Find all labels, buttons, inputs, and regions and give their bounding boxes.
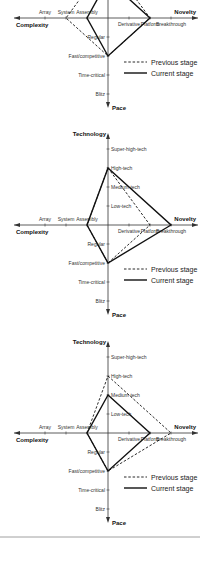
- arrow-left-icon: [14, 16, 20, 20]
- pace-axis-label: Pace: [112, 312, 127, 318]
- pace-tick: Blitz: [96, 506, 106, 512]
- complexity-axis-label: Complexity: [16, 229, 49, 235]
- technology-tick: High-tech: [111, 373, 133, 379]
- arrow-up-icon: [106, 133, 110, 139]
- pace-tick: Blitz: [96, 91, 106, 97]
- novelty-tick: Derivative: [118, 21, 140, 27]
- complexity-tick: System: [58, 216, 75, 222]
- pace-tick: Fast/competitive: [69, 53, 106, 59]
- complexity-tick: Array: [39, 424, 51, 430]
- technology-tick: Low-tech: [111, 203, 132, 209]
- pace-tick: Time-critical: [78, 279, 105, 285]
- technology-tick: Super-high-tech: [111, 146, 147, 152]
- technology-axis-label: Technology: [73, 131, 107, 137]
- pace-tick: Blitz: [96, 298, 106, 304]
- pace-tick: Time-critical: [78, 72, 105, 78]
- complexity-axis-label: Complexity: [16, 437, 49, 443]
- novelty-axis-label: Novelty: [174, 9, 196, 15]
- novelty-tick: Derivative: [118, 436, 140, 442]
- current-stage-shape: [87, 168, 171, 263]
- legend-current: Current stage: [151, 70, 194, 78]
- complexity-tick: System: [58, 424, 75, 430]
- arrow-right-icon: [192, 223, 198, 227]
- arrow-right-icon: [192, 16, 198, 20]
- complexity-tick: Array: [39, 216, 51, 222]
- complexity-tick: Assembly: [76, 9, 98, 15]
- complexity-tick: Array: [39, 9, 51, 15]
- technology-tick: Medium-tech: [111, 392, 140, 398]
- diamond-model-figure: NoveltyComplexityPaceAssemblySystemArray…: [0, 0, 215, 562]
- arrow-left-icon: [14, 223, 20, 227]
- arrow-up-icon: [106, 341, 110, 347]
- complexity-tick: Assembly: [76, 424, 98, 430]
- legend-current: Current stage: [151, 277, 194, 285]
- complexity-tick: Assembly: [76, 216, 98, 222]
- pace-axis-label: Pace: [112, 520, 127, 526]
- novelty-tick: Derivative: [118, 228, 140, 234]
- legend-previous: Previous stage: [151, 59, 197, 67]
- pace-tick: Time-critical: [78, 487, 105, 493]
- technology-tick: Medium-tech: [111, 184, 140, 190]
- arrow-left-icon: [14, 431, 20, 435]
- pace-axis-label: Pace: [112, 105, 127, 111]
- legend-previous: Previous stage: [151, 474, 197, 482]
- novelty-axis-label: Novelty: [174, 424, 196, 430]
- technology-tick: Super-high-tech: [111, 354, 147, 360]
- novelty-tick: Breakthrough: [156, 21, 186, 27]
- complexity-axis-label: Complexity: [16, 22, 49, 28]
- pace-tick: Fast/competitive: [69, 468, 106, 474]
- arrow-down-icon: [106, 517, 110, 523]
- novelty-axis-label: Novelty: [174, 216, 196, 222]
- legend-previous: Previous stage: [151, 266, 197, 274]
- arrow-down-icon: [106, 102, 110, 108]
- technology-axis-label: Technology: [73, 339, 107, 345]
- technology-tick: High-tech: [111, 165, 133, 171]
- arrow-down-icon: [106, 309, 110, 315]
- legend-current: Current stage: [151, 485, 194, 493]
- arrow-right-icon: [192, 431, 198, 435]
- pace-tick: Fast/competitive: [69, 260, 106, 266]
